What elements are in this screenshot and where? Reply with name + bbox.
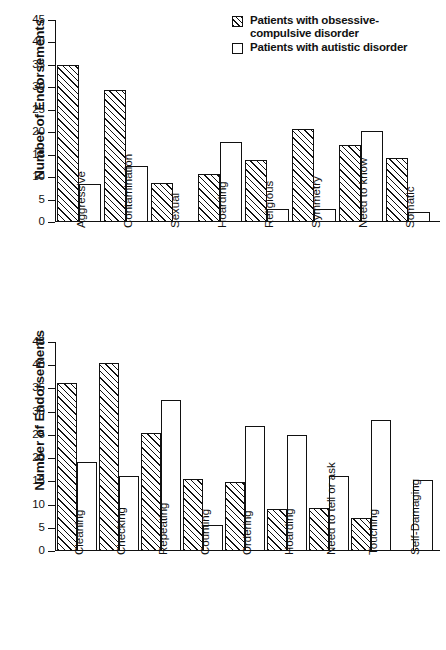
y-axis-line-bottom <box>55 342 56 551</box>
obsessions-chart-panel: Number of Endorsements 05101520253035404… <box>0 0 446 325</box>
x-label-cleaning: Cleaning <box>74 510 86 555</box>
legend-label-ocd: Patients with obsessive-compulsive disor… <box>250 14 379 39</box>
y-tick-label-0: 0 <box>39 216 45 228</box>
x-label-need-to-know: Need to know <box>358 158 370 228</box>
y-tick-label-45: 45 <box>32 336 45 348</box>
y-tick-25 <box>48 435 55 436</box>
y-tick-5 <box>48 528 55 529</box>
legend-label-autistic: Patients with autistic disorder <box>250 41 407 54</box>
y-tick-10 <box>48 505 55 506</box>
y-tick-label-30: 30 <box>32 82 45 94</box>
x-label-religious: Religious <box>264 181 276 228</box>
x-label-checking: Checking <box>116 507 128 555</box>
y-axis-line-top <box>55 20 56 222</box>
open-square-icon <box>232 43 243 54</box>
y-tick-35 <box>48 65 55 66</box>
y-tick-label-25: 25 <box>32 429 45 441</box>
y-tick-label-10: 10 <box>32 171 45 183</box>
y-tick-label-10: 10 <box>32 499 45 511</box>
y-tick-10 <box>48 177 55 178</box>
y-tick-label-35: 35 <box>32 59 45 71</box>
y-tick-label-45: 45 <box>32 14 45 26</box>
y-tick-40 <box>48 365 55 366</box>
y-tick-label-40: 40 <box>32 359 45 371</box>
y-tick-0 <box>48 222 55 223</box>
y-tick-20 <box>48 458 55 459</box>
legend-item-autistic: Patients with autistic disorder <box>232 41 407 54</box>
y-tick-25 <box>48 110 55 111</box>
y-tick-15 <box>48 481 55 482</box>
x-label-somatic: Somatic <box>405 186 417 228</box>
y-tick-5 <box>48 200 55 201</box>
hatched-square-icon <box>232 16 243 27</box>
x-label-sexual: Sexual <box>170 193 182 228</box>
x-label-counting: Counting <box>200 509 212 555</box>
y-tick-label-20: 20 <box>32 126 45 138</box>
y-tick-label-40: 40 <box>32 37 45 49</box>
y-tick-20 <box>48 132 55 133</box>
y-tick-label-5: 5 <box>39 194 45 206</box>
y-tick-40 <box>48 42 55 43</box>
y-tick-label-30: 30 <box>32 406 45 418</box>
y-tick-label-20: 20 <box>32 452 45 464</box>
x-label-symmetry: Symmetry <box>311 176 323 228</box>
x-label-hoarding: Hoarding <box>217 181 229 228</box>
y-tick-label-15: 15 <box>32 476 45 488</box>
x-label-need-to-tell-or-ask: Need to tell or ask <box>326 462 338 555</box>
y-tick-45 <box>48 342 55 343</box>
compulsions-chart-panel: Number of Endorsements 05101520253035404… <box>0 325 446 650</box>
y-tick-label-5: 5 <box>39 522 45 534</box>
x-label-touching: Touching <box>368 509 380 555</box>
y-tick-35 <box>48 388 55 389</box>
y-tick-0 <box>48 551 55 552</box>
x-label-self-damaging: Self-Damaging <box>410 479 422 555</box>
y-tick-label-15: 15 <box>32 149 45 161</box>
y-tick-label-0: 0 <box>39 545 45 557</box>
x-label-hoarding: Hoarding <box>284 508 296 555</box>
y-tick-30 <box>48 412 55 413</box>
x-label-contamination: Contamination <box>123 154 135 228</box>
y-tick-45 <box>48 20 55 21</box>
y-axis-title-top: Number of Endorsements <box>32 5 47 195</box>
x-label-ordering: Ordering <box>242 510 254 555</box>
y-tick-30 <box>48 87 55 88</box>
y-tick-label-25: 25 <box>32 104 45 116</box>
chart-legend: Patients with obsessive-compulsive disor… <box>232 14 407 56</box>
y-tick-15 <box>48 155 55 156</box>
legend-item-ocd: Patients with obsessive-compulsive disor… <box>232 14 407 39</box>
y-tick-label-35: 35 <box>32 383 45 395</box>
x-label-repeating: Repeating <box>158 503 170 555</box>
x-label-aggressive: Aggressive <box>76 171 88 228</box>
